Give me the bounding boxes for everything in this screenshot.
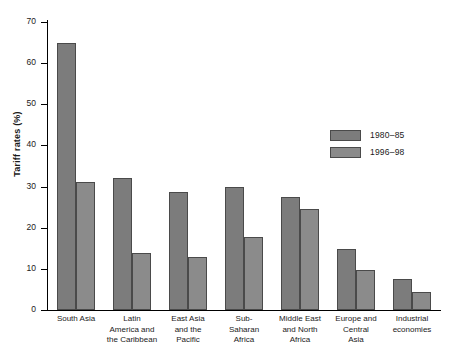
legend-swatch-icon	[330, 130, 361, 141]
bar	[113, 178, 132, 310]
x-axis-category-label: Sub- Saharan Africa	[212, 314, 276, 346]
bar	[281, 197, 300, 310]
y-axis-tick	[41, 145, 47, 146]
y-axis-tick-label: 20	[8, 223, 36, 232]
bar	[132, 253, 151, 310]
bar	[169, 192, 188, 310]
legend-swatch-icon	[330, 147, 361, 158]
legend-item-label: 1996–98	[370, 148, 405, 157]
y-axis-tick	[41, 310, 47, 311]
legend-item-label: 1980–85	[370, 131, 405, 140]
y-axis-tick	[41, 228, 47, 229]
y-axis-tick	[41, 63, 47, 64]
bar	[300, 209, 319, 310]
bar	[337, 249, 356, 310]
x-axis-line	[47, 310, 441, 311]
y-axis-tick-label: 70	[8, 17, 36, 26]
y-axis-tick	[41, 104, 47, 105]
x-axis-category-label: Industrial economies	[380, 314, 444, 335]
y-axis-tick	[41, 269, 47, 270]
y-axis-tick-label: 60	[8, 58, 36, 67]
bar	[412, 292, 431, 310]
y-axis-tick-label: 10	[8, 264, 36, 273]
legend-item[interactable]: 1996–98	[330, 146, 405, 159]
y-axis-tick	[41, 187, 47, 188]
bar	[57, 43, 76, 310]
y-axis-tick-label: 40	[8, 140, 36, 149]
y-axis-tick-label: 30	[8, 182, 36, 191]
bar	[76, 182, 95, 310]
bar	[225, 187, 244, 310]
bar	[356, 270, 375, 310]
bar-chart: Tariff rates (%) 010203040506070 South A…	[0, 0, 449, 363]
legend-item[interactable]: 1980–85	[330, 129, 405, 142]
bar	[244, 237, 263, 310]
x-axis-category-label: Latin America and the Caribbean	[100, 314, 164, 346]
y-axis-line	[47, 20, 48, 311]
y-axis-tick	[41, 22, 47, 23]
x-axis-category-label: Middle East and North Africa	[268, 314, 332, 346]
legend: 1980–85 1996–98	[330, 129, 405, 163]
x-axis-category-label: East Asia and the Pacific	[156, 314, 220, 346]
y-axis-tick-label: 0	[8, 305, 36, 314]
x-axis-category-label: Europe and Central Asia	[324, 314, 388, 346]
x-axis-category-label: South Asia	[44, 314, 108, 325]
y-axis-tick-label: 50	[8, 99, 36, 108]
bar	[188, 257, 207, 310]
bar	[393, 279, 412, 310]
